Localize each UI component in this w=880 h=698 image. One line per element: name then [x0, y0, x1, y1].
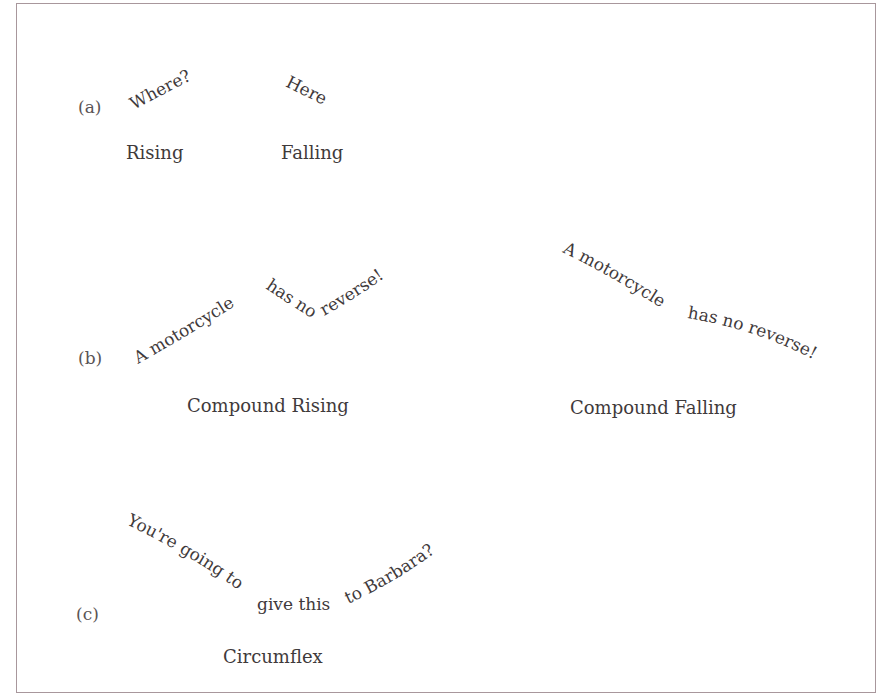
caption-falling: Falling: [281, 142, 343, 163]
section-label-c: (c): [76, 604, 99, 624]
contour-text: Where?: [126, 65, 194, 113]
contour-circumflex: You're going to give this to Barbara?: [123, 509, 437, 614]
intonation-figure: (a) Where? Rising Here Falling (b) A mot…: [0, 0, 880, 698]
svg-text:A motorcycle: A motorcycle: [559, 237, 669, 311]
contour-rising-where: Where?: [126, 65, 194, 113]
svg-text:reverse!: reverse!: [316, 265, 387, 320]
contour-compound-falling: A motorcycle has no reverse!: [559, 237, 820, 363]
contour-segment: reverse!: [316, 265, 387, 320]
contour-falling-here: Here: [283, 72, 330, 109]
intonation-diagram: (a) Where? Rising Here Falling (b) A mot…: [0, 0, 880, 698]
contour-segment: has no: [263, 275, 321, 322]
contour-segment: You're going to: [123, 509, 247, 593]
contour-segment: A motorcycle: [129, 292, 237, 368]
contour-segment: to Barbara?: [341, 539, 438, 607]
contour-segment: has no reverse!: [686, 302, 820, 363]
section-a: (a) Where? Rising Here Falling: [78, 65, 343, 163]
section-label-b: (b): [78, 348, 102, 368]
svg-text:A motorcycle: A motorcycle: [129, 292, 237, 368]
section-b: (b) A motorcycle has no reverse! Compoun…: [78, 237, 821, 418]
section-label-a: (a): [78, 97, 101, 117]
caption-circumflex: Circumflex: [223, 646, 323, 667]
contour-text: Here: [283, 72, 330, 109]
svg-text:You're going to: You're going to: [123, 509, 247, 593]
svg-text:to Barbara?: to Barbara?: [341, 539, 438, 607]
svg-text:has no reverse!: has no reverse!: [686, 302, 820, 363]
section-c: (c) You're going to give this to Barbara…: [76, 509, 438, 667]
caption-rising: Rising: [126, 142, 183, 163]
contour-segment: A motorcycle: [559, 237, 669, 311]
caption-compound-falling: Compound Falling: [570, 397, 737, 418]
contour-compound-rising: A motorcycle has no reverse!: [129, 265, 387, 368]
contour-segment: give this: [257, 594, 330, 614]
caption-compound-rising: Compound Rising: [187, 395, 349, 416]
svg-text:has no: has no: [263, 275, 321, 322]
